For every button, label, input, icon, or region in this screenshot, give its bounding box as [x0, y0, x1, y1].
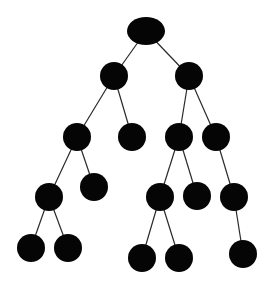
tree-node	[183, 182, 211, 210]
tree-node	[80, 173, 108, 201]
tree-node	[100, 62, 128, 90]
tree-node	[165, 244, 193, 272]
tree-node	[202, 123, 230, 151]
tree-node	[118, 123, 146, 151]
tree-nodes	[17, 17, 257, 272]
tree-node	[229, 240, 257, 268]
tree-node	[175, 62, 203, 90]
tree-node	[146, 183, 174, 211]
tree-node	[35, 183, 63, 211]
tree-diagram	[0, 0, 267, 284]
tree-node	[220, 183, 248, 211]
tree-node	[128, 244, 156, 272]
tree-node	[165, 123, 193, 151]
tree-root-node	[127, 17, 165, 45]
tree-node	[17, 234, 45, 262]
tree-node	[63, 123, 91, 151]
tree-node	[54, 234, 82, 262]
